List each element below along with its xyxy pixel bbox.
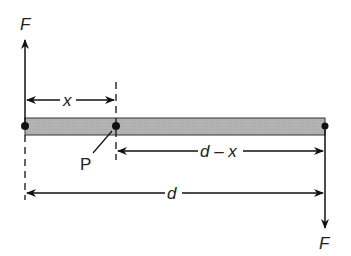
- force-label-top: F: [20, 15, 32, 34]
- bar: [25, 118, 325, 135]
- pivot-point-left: [21, 122, 29, 130]
- x-label: x: [62, 91, 72, 110]
- d-label: d: [167, 184, 177, 203]
- force-label-bottom: F: [319, 234, 331, 253]
- pivot-point-right: [322, 123, 329, 130]
- lever-diagram: F F x d – x d P: [0, 0, 351, 256]
- d-minus-x-label: d – x: [200, 142, 237, 161]
- point-p: [112, 122, 120, 130]
- point-p-label: P: [80, 155, 91, 174]
